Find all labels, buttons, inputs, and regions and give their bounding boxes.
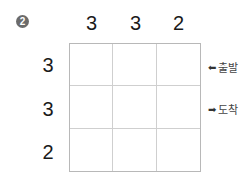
grid-cell[interactable] (70, 44, 113, 86)
column-clue: 3 (70, 11, 113, 35)
grid-cell[interactable] (157, 44, 200, 86)
end-label: 도착 (218, 101, 238, 117)
row-clue: 3 (38, 53, 58, 77)
puzzle-grid (69, 43, 201, 172)
grid-cell[interactable] (157, 86, 200, 128)
grid-cell[interactable] (70, 86, 113, 128)
arrow-left-icon: ⬅ (208, 62, 216, 73)
grid-cell[interactable] (113, 44, 156, 86)
grid-cell[interactable] (157, 129, 200, 171)
problem-number-badge: 2 (16, 15, 29, 28)
grid-cell[interactable] (70, 129, 113, 171)
end-marker: ➡ 도착 (208, 101, 238, 117)
grid-cell[interactable] (113, 129, 156, 171)
arrow-right-icon: ➡ (208, 104, 216, 115)
column-clue: 2 (157, 11, 200, 35)
row-clue: 2 (38, 140, 58, 164)
grid-cell[interactable] (113, 86, 156, 128)
start-marker: ⬅ 출발 (208, 59, 238, 75)
column-clue: 3 (114, 11, 157, 35)
start-label: 출발 (218, 59, 238, 75)
row-clue: 3 (38, 97, 58, 121)
